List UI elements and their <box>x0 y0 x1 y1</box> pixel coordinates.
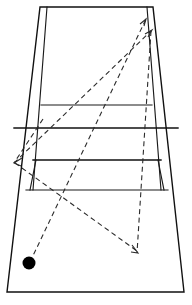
ball-marker-group <box>23 257 36 270</box>
tennis-court-diagram <box>0 0 192 305</box>
ball-icon <box>23 257 36 270</box>
trajectory-shot-1-outgoing <box>30 19 146 262</box>
trajectory-shot-1-line <box>30 19 146 262</box>
singles-sidelines-group <box>33 7 161 190</box>
court-svg-canvas <box>0 0 192 305</box>
trajectory-shot-4-line <box>14 119 43 163</box>
net-side-segments-group <box>30 160 164 190</box>
trajectory-shot-3-line <box>137 31 151 253</box>
trajectory-shot-3-return <box>131 31 151 253</box>
trajectory-shot-1-arrowhead-up-right <box>140 19 146 26</box>
trajectory-shot-4-return <box>14 119 43 166</box>
